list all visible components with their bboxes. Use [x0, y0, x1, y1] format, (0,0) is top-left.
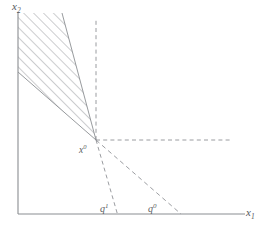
x0-point-label: x0: [79, 144, 86, 156]
x1-axis-label: x1: [246, 207, 255, 221]
q0-curve-label-sup: 0: [153, 202, 157, 210]
cone-hatch-fill: [18, 13, 96, 140]
x2-axis-label-sub: 2: [17, 6, 21, 15]
x0-point-label-sup: 0: [83, 143, 86, 150]
figure-container: x1 x2 x0 q1 q0: [0, 0, 277, 235]
preferred-set-cone: [18, 13, 96, 140]
q1-curve-label-sup: 1: [105, 202, 109, 210]
q1-curve-label: q1: [100, 203, 109, 214]
x1-axis-label-sub: 1: [251, 212, 255, 221]
x2-axis-label: x2: [12, 1, 21, 15]
q0-budget-line: [96, 140, 181, 214]
figure-canvas: [0, 0, 277, 235]
q0-curve-label: q0: [148, 203, 157, 214]
